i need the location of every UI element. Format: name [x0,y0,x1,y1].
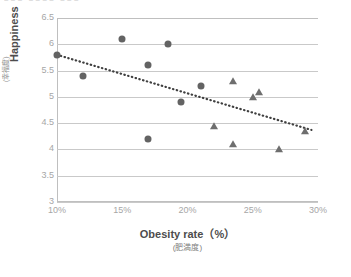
data-point-circle [145,62,152,69]
data-point-circle [177,99,184,106]
y-tick-label: 4.5 [26,118,54,127]
gridline [57,202,318,203]
x-tick-label: 10% [37,206,77,215]
x-tick-label: 30% [298,206,338,215]
data-point-circle [197,83,204,90]
data-point-triangle [210,122,218,129]
data-point-circle [80,72,87,79]
data-point-triangle [255,88,263,95]
y-axis-subtitle: (幸福度) [0,12,10,82]
data-point-triangle [229,140,237,147]
y-tick-label: 6 [26,39,54,48]
data-point-triangle [229,77,237,84]
y-tick-label: 6.5 [26,13,54,22]
data-point-triangle [275,146,283,153]
y-tick-label: 5.5 [26,66,54,75]
x-tick-label: 15% [102,206,142,215]
x-tick-label: 20% [168,206,208,215]
plot-area [57,18,318,202]
data-point-circle [119,36,126,43]
data-point-circle [145,135,152,142]
scatter-chart: 6.565.554.543.53 10%15%20%25%30% Obesity… [0,0,351,277]
data-point-triangle [301,127,309,134]
x-axis-tick-labels: 10%15%20%25%30% [57,206,318,220]
y-tick-label: 5 [26,92,54,101]
data-point-circle [54,51,61,58]
y-tick-label: 4 [26,144,54,153]
data-point-circle [164,41,171,48]
x-tick-label: 25% [233,206,273,215]
trendline [57,18,318,202]
x-axis-subtitle: (肥満度) [57,243,318,252]
y-tick-label: 3.5 [26,171,54,180]
x-axis-title: Obesity rate（%） [57,228,318,241]
